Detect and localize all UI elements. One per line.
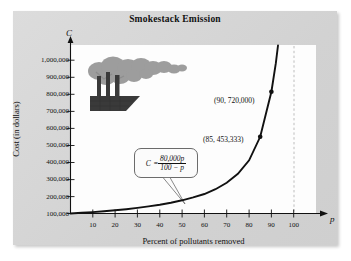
data-point-1 [269,89,274,94]
axes-and-curve [0,0,351,261]
y-axis-arrow [68,36,74,43]
figure-container: Smokestack Emission 1,000,000900,000800,… [0,0,351,261]
data-point-2 [258,135,263,140]
x-axis-arrow [320,211,328,217]
